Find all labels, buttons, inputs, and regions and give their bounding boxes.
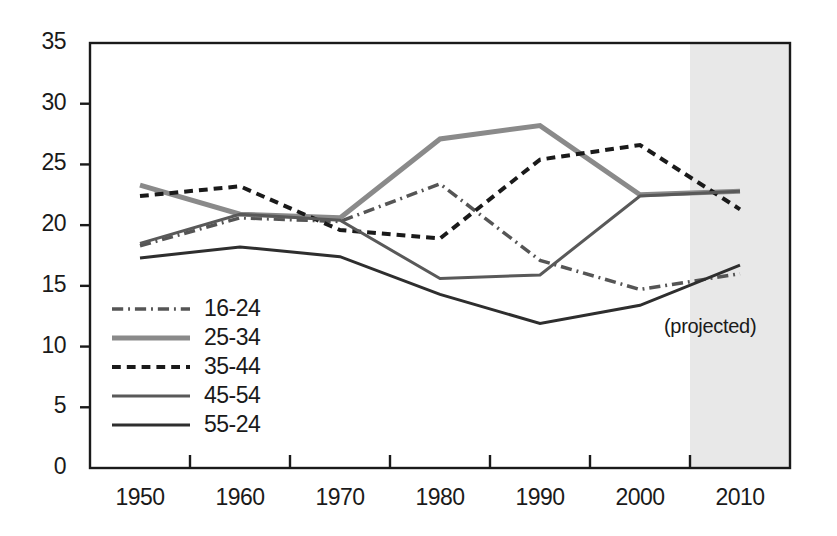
y-tick-label: 25 xyxy=(6,149,66,176)
legend-swatch-icon xyxy=(112,357,190,377)
chart-legend: 16-2425-3435-4445-5455-24 xyxy=(112,294,260,439)
x-tick-label: 2010 xyxy=(700,484,780,511)
series-line-45-54 xyxy=(140,191,740,278)
legend-item-35-44[interactable]: 35-44 xyxy=(112,352,260,381)
legend-label: 35-44 xyxy=(204,353,260,380)
y-tick-label: 15 xyxy=(6,271,66,298)
x-tick-label: 1970 xyxy=(300,484,380,511)
x-tick-label: 1960 xyxy=(200,484,280,511)
line-chart-plot xyxy=(0,0,837,536)
y-tick-label: 35 xyxy=(6,28,66,55)
legend-swatch-icon xyxy=(112,386,190,406)
legend-label: 55-24 xyxy=(204,411,260,438)
legend-swatch-icon xyxy=(112,415,190,435)
projected-annotation: (projected) xyxy=(664,315,756,338)
x-tick-label: 1950 xyxy=(100,484,180,511)
y-tick-label: 10 xyxy=(6,332,66,359)
projected-shaded-region xyxy=(690,43,790,468)
legend-item-25-34[interactable]: 25-34 xyxy=(112,323,260,352)
y-tick-label: 5 xyxy=(6,392,66,419)
legend-item-55-24[interactable]: 55-24 xyxy=(112,410,260,439)
chart-container: 05101520253035 1950196019701980199020002… xyxy=(0,0,837,536)
x-tick-label: 1990 xyxy=(500,484,580,511)
y-tick-label: 20 xyxy=(6,210,66,237)
legend-swatch-icon xyxy=(112,299,190,319)
legend-label: 25-34 xyxy=(204,324,260,351)
y-tick-label: 30 xyxy=(6,89,66,116)
series-line-25-34 xyxy=(140,126,740,218)
legend-item-45-54[interactable]: 45-54 xyxy=(112,381,260,410)
x-tick-label: 1980 xyxy=(400,484,480,511)
legend-label: 16-24 xyxy=(204,295,260,322)
series-line-35-44 xyxy=(140,145,740,239)
legend-swatch-icon xyxy=(112,328,190,348)
x-tick-label: 2000 xyxy=(600,484,680,511)
legend-item-16-24[interactable]: 16-24 xyxy=(112,294,260,323)
y-tick-label: 0 xyxy=(6,453,66,480)
legend-label: 45-54 xyxy=(204,382,260,409)
